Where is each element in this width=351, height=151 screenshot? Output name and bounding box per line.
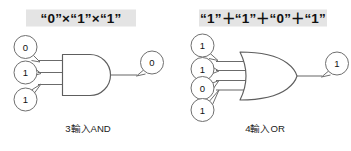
and-gate-diagram: “0”×“1”×“1” 0 1 1 bbox=[14, 10, 164, 135]
and-output-label: 0 bbox=[149, 57, 154, 68]
or-input-label-2: 0 bbox=[200, 83, 205, 94]
and-caption: 3輸入AND bbox=[65, 123, 111, 134]
and-input-callout-0: 0 bbox=[14, 36, 40, 63]
or-caption: 4輸入OR bbox=[245, 123, 285, 134]
or-input-callout-2: 0 bbox=[191, 77, 219, 100]
and-input-label-2: 1 bbox=[23, 94, 28, 105]
or-input-label-1: 1 bbox=[200, 64, 205, 75]
and-input-label-0: 0 bbox=[23, 42, 28, 53]
or-input-callout-0: 1 bbox=[191, 34, 218, 61]
or-output-callout: 1 bbox=[322, 52, 349, 77]
and-title: “0”×“1”×“1” bbox=[41, 11, 122, 26]
and-output-callout: 0 bbox=[137, 51, 164, 76]
and-input-callout-1: 1 bbox=[14, 61, 41, 84]
or-gate-body bbox=[240, 52, 297, 100]
or-output-label: 1 bbox=[334, 58, 339, 69]
or-input-label-3: 1 bbox=[200, 105, 205, 116]
or-title: “1”＋“1”＋“0”＋“1” bbox=[200, 11, 326, 26]
logic-gate-figure: “0”×“1”×“1” 0 1 1 bbox=[0, 0, 351, 151]
and-input-callout-2: 1 bbox=[14, 84, 41, 111]
or-gate-diagram: “1”＋“1”＋“0”＋“1” 1 1 0 bbox=[191, 10, 349, 135]
or-input-label-0: 1 bbox=[200, 40, 205, 51]
and-input-label-1: 1 bbox=[23, 67, 28, 78]
and-gate-body bbox=[63, 55, 111, 96]
